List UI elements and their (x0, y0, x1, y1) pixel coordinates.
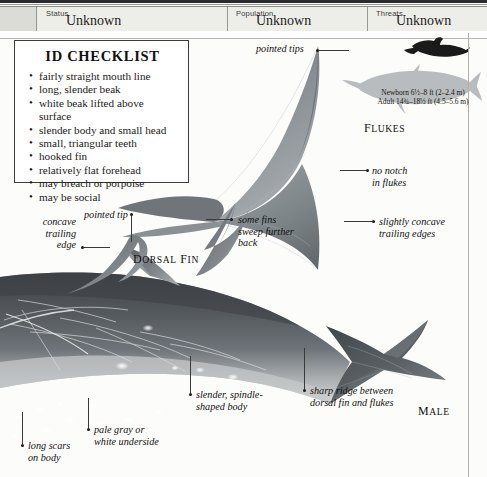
checklist-item: fairly straight mouth line (39, 70, 178, 83)
checklist-item: slender body and small head (39, 124, 178, 137)
top-rule (0, 0, 487, 3)
leader-line (22, 412, 23, 444)
checklist-item: small, triangular teeth (39, 137, 178, 150)
leader-line (319, 50, 349, 51)
status-field-status: Status Unknown (38, 7, 228, 32)
leader-line (88, 398, 89, 428)
status-gutter (0, 7, 37, 32)
flukes-caption: FLUKES (364, 121, 405, 136)
leader-dot (316, 49, 319, 52)
leader-line (190, 356, 191, 393)
checklist-item: may be social (39, 191, 178, 204)
male-caption: MALE (418, 404, 450, 419)
annotation-pale-gray: pale gray or white underside (94, 424, 159, 447)
adult-size: Adult 14¾–18½ ft (4.5–5.6 m) (362, 97, 484, 106)
annotation-no-notch: no notch in flukes (372, 165, 407, 188)
species-id-page: Status Unknown Population Unknown Threat… (0, 0, 487, 477)
checklist-item: long, slender beak (39, 83, 178, 96)
status-field-threats: Threats Unknown (368, 7, 487, 32)
annotation-concave-trailing-edge: concave trailing edge (22, 216, 76, 251)
annotation-long-scars: long scars on body (28, 440, 70, 463)
leader-dot (372, 220, 375, 223)
leader-line (344, 221, 372, 222)
population-value: Unknown (256, 13, 311, 29)
leader-dot (303, 389, 306, 392)
status-value: Unknown (66, 13, 121, 29)
checklist-item: relatively flat forehead (39, 164, 178, 177)
dolphin-body (0, 273, 350, 439)
threats-value: Unknown (396, 13, 451, 29)
leader-dot (189, 393, 192, 396)
checklist-item: hooked fin (39, 150, 178, 163)
annotation-pointed-tips: pointed tips (256, 43, 304, 55)
checklist-item: may breach or porpoise (39, 177, 178, 190)
top-rule-thin (0, 4, 487, 5)
leader-line (131, 216, 132, 242)
leader-dot (21, 444, 24, 447)
annotation-sharp-ridge: sharp ridge between dorsal fin and fluke… (310, 385, 393, 408)
leader-dot (366, 169, 369, 172)
annotation-some-fins: some fins sweep further back (238, 214, 294, 249)
dorsal-fin-caption: DORSAL FIN (133, 252, 199, 267)
checklist-items: fairly straight mouth line long, slender… (27, 70, 178, 204)
annotation-pointed-tip: pointed tip (84, 209, 128, 221)
leader-line (340, 170, 366, 171)
leader-line (304, 348, 305, 389)
swimmer-silhouette (412, 37, 470, 57)
scale-measurements: Newborn 6½–8 ft (2–2.4 m) Adult 14¾–18½ … (362, 88, 484, 107)
annotation-slightly-concave: slightly concave trailing edges (379, 216, 445, 239)
checklist-title: ID CHECKLIST (27, 48, 178, 65)
leader-line (206, 219, 230, 220)
newborn-size: Newborn 6½–8 ft (2–2.4 m) (362, 88, 484, 97)
leader-dot (130, 213, 133, 216)
checklist-item: white beak lifted above surface (39, 97, 178, 124)
status-field-population: Population Unknown (228, 7, 368, 32)
leader-dot (230, 218, 233, 221)
leader-dot (87, 428, 90, 431)
id-checklist-panel: ID CHECKLIST fairly straight mouth line … (14, 40, 189, 183)
leader-line (84, 247, 110, 248)
status-bar: Status Unknown Population Unknown Threat… (0, 6, 487, 33)
annotation-slender-body: slender, spindle- shaped body (196, 389, 263, 412)
leader-dot (81, 246, 84, 249)
